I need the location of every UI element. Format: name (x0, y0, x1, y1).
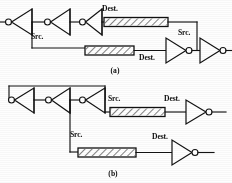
inverter-b1 (9, 88, 35, 113)
delay-box-b-lower (78, 148, 136, 157)
inverter-a1 (6, 9, 33, 35)
inverter-b2 (46, 88, 71, 113)
inverter-b4 (186, 100, 212, 124)
inverter-a3 (80, 9, 103, 35)
inverter-b5 (172, 140, 198, 165)
inverter-b3 (80, 88, 106, 113)
delay-box-a-lower (85, 46, 134, 55)
inverter-a5 (200, 38, 226, 63)
delay-box-b-upper (110, 108, 165, 117)
inverter-a4 (166, 38, 192, 63)
label-dest-lower-a: Dest. (139, 53, 155, 62)
circuit-canvas: Dest. Src. Src. Dest. (a) (0, 0, 232, 183)
label-src-right-a: Src. (178, 28, 191, 37)
delay-box-a-upper (104, 18, 168, 27)
caption-panel-b: (b) (108, 169, 118, 178)
label-src-lower-a: Src. (31, 32, 44, 41)
panel-b: Src. Dest. Src. Dest. (b) (9, 86, 227, 178)
caption-panel-a: (a) (111, 66, 120, 75)
figure-root: Dest. Src. Src. Dest. (a) (0, 0, 232, 183)
label-dest-lower-b: Dest. (152, 132, 168, 141)
label-src-lower-b: Src. (70, 130, 83, 139)
inverter-a2 (45, 9, 71, 35)
label-dest-upper-a: Dest. (102, 4, 118, 13)
panel-a: Dest. Src. Src. Dest. (a) (0, 4, 232, 75)
label-src-upper-b: Src. (108, 94, 121, 103)
label-dest-upper-b: Dest. (164, 94, 180, 103)
